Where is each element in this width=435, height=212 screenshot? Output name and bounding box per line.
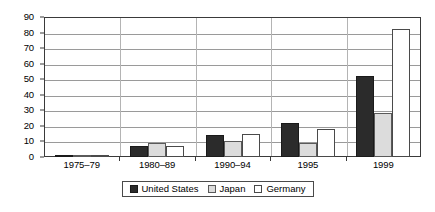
legend-swatch-united-states <box>129 185 137 193</box>
legend-swatch-japan <box>208 185 216 193</box>
x-axis-tick-label: 1995 <box>298 160 319 170</box>
y-axis-tick-mark <box>40 32 44 33</box>
legend-item: Germany <box>254 184 305 194</box>
gridline <box>45 49 420 50</box>
legend-item: United States <box>129 184 198 194</box>
gridline <box>45 65 420 66</box>
legend-item: Japan <box>208 184 246 194</box>
y-axis-tick-label: 50 <box>24 74 34 84</box>
y-axis-tick-mark <box>40 157 44 158</box>
y-axis-tick-mark <box>40 110 44 111</box>
y-axis-tick-mark <box>40 94 44 95</box>
category-divider <box>120 18 121 156</box>
gridline <box>45 142 420 143</box>
legend-swatch-germany <box>254 185 262 193</box>
x-axis-tick-mark <box>119 157 120 161</box>
gridline <box>45 96 420 97</box>
x-axis-tick-label: 1975–79 <box>64 160 100 170</box>
category-divider <box>347 18 348 156</box>
x-axis-tick-mark <box>195 157 196 161</box>
x-axis-tick-mark <box>346 157 347 161</box>
x-axis: 1975–791980–891990–9419951999 <box>44 160 421 176</box>
y-axis-tick-label: 20 <box>24 121 34 131</box>
y-axis-tick-label: 0 <box>29 152 34 162</box>
plot-area <box>44 17 421 157</box>
y-axis-tick-mark <box>40 63 44 64</box>
legend-item-label: Japan <box>220 184 246 194</box>
y-axis-tick-label: 70 <box>24 43 34 53</box>
y-axis-tick-label: 40 <box>24 90 34 100</box>
y-axis-tick-label: 30 <box>24 106 34 116</box>
gridline <box>45 80 420 81</box>
bar-chart-figure: 0102030405060708090 1975–791980–891990–9… <box>0 0 435 212</box>
y-axis-tick-mark <box>40 141 44 142</box>
y-axis-tick-mark <box>40 17 44 18</box>
x-axis-tick-mark <box>270 157 271 161</box>
y-axis-tick-mark <box>40 125 44 126</box>
y-axis-tick-label: 10 <box>24 137 34 147</box>
y-axis-tick-label: 80 <box>24 28 34 38</box>
y-axis-tick-mark <box>40 79 44 80</box>
legend-item-label: United States <box>141 184 198 194</box>
gridline <box>45 34 420 35</box>
y-axis-tick-label: 60 <box>24 59 34 69</box>
gridline <box>45 111 420 112</box>
category-divider <box>196 18 197 156</box>
x-axis-tick-label: 1990–94 <box>214 160 250 170</box>
y-axis-tick-mark <box>40 48 44 49</box>
x-axis-tick-label: 1999 <box>373 160 394 170</box>
chart-legend: United StatesJapanGermany <box>121 181 313 197</box>
legend-item-label: Germany <box>266 184 305 194</box>
y-axis-tick-label: 90 <box>24 12 34 22</box>
category-divider <box>271 18 272 156</box>
x-axis-tick-label: 1980–89 <box>139 160 175 170</box>
y-axis: 0102030405060708090 <box>0 0 40 212</box>
gridline <box>45 127 420 128</box>
